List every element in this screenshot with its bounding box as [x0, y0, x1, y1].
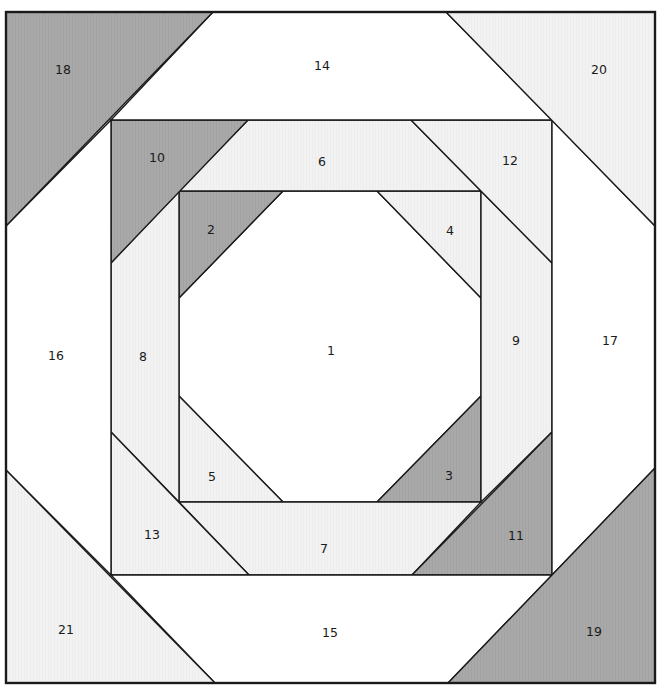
piece-label-10: 10 — [149, 150, 165, 165]
piece-label-19: 19 — [586, 624, 602, 639]
piece-label-2: 2 — [207, 222, 215, 237]
piece-label-14: 14 — [314, 58, 330, 73]
piece-label-1: 1 — [327, 343, 335, 358]
piece-label-21: 21 — [58, 622, 74, 637]
piece-label-5: 5 — [208, 469, 216, 484]
piece-label-18: 18 — [55, 62, 71, 77]
piece-label-7: 7 — [320, 541, 328, 556]
piece-label-13: 13 — [144, 527, 160, 542]
piece-label-16: 16 — [48, 348, 64, 363]
piece-label-12: 12 — [502, 153, 518, 168]
piece-label-4: 4 — [446, 223, 454, 238]
piece-label-15: 15 — [322, 625, 338, 640]
piece-label-20: 20 — [591, 62, 607, 77]
piece-label-3: 3 — [445, 468, 453, 483]
piece-label-11: 11 — [508, 528, 524, 543]
piece-label-8: 8 — [139, 349, 147, 364]
quilt-block-diagram: 123456789101112131415161718192021 — [0, 0, 660, 689]
piece-label-9: 9 — [512, 333, 520, 348]
piece-label-17: 17 — [602, 333, 618, 348]
piece-label-6: 6 — [318, 154, 326, 169]
